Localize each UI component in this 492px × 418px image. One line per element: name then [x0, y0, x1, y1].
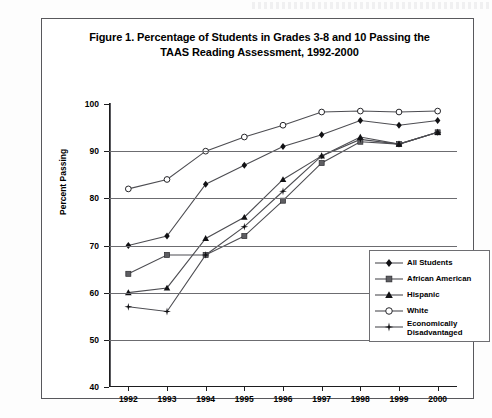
y-tick-label-60: 60 — [73, 288, 99, 298]
data-point-marker — [126, 271, 131, 276]
legend-item-label: All Students — [407, 258, 489, 267]
x-tick-1998 — [360, 387, 361, 391]
series-line — [128, 121, 437, 246]
data-point-marker — [319, 160, 324, 165]
data-point-marker — [164, 252, 169, 257]
x-tick-1992 — [128, 387, 129, 391]
figure-title: Figure 1. Percentage of Students in Grad… — [67, 30, 452, 60]
y-tick-100 — [104, 104, 109, 105]
x-tick-1999 — [399, 387, 400, 391]
data-point-marker — [202, 235, 209, 241]
x-tick-label-1996: 1996 — [263, 394, 303, 404]
x-tick-label-1993: 1993 — [147, 394, 187, 404]
x-tick-1996 — [283, 387, 284, 391]
page-header-bleedthrough-artifact — [252, 2, 490, 9]
diamond-marker-icon — [374, 255, 404, 271]
data-point-marker — [319, 131, 324, 138]
y-tick-label-70: 70 — [73, 241, 99, 251]
x-tick-1997 — [322, 387, 323, 391]
data-point-marker — [280, 143, 285, 150]
y-tick-label-90: 90 — [73, 146, 99, 156]
data-point-marker — [242, 162, 247, 169]
series-all-students — [126, 117, 441, 249]
data-point-marker — [164, 177, 170, 183]
data-point-marker — [396, 109, 402, 115]
gridline-80 — [109, 198, 457, 199]
legend-item-label: Hispanic — [407, 290, 489, 299]
x-tick-label-1994: 1994 — [186, 394, 226, 404]
y-tick-90 — [104, 151, 109, 152]
legend-item-label: White — [407, 306, 489, 315]
data-point-marker — [242, 234, 247, 239]
figure-title-line-2: TAAS Reading Assessment, 1992-2000 — [160, 46, 358, 58]
plot-area: 1009080706050401992199319941995199619971… — [109, 104, 457, 387]
data-point-marker — [125, 186, 131, 192]
x-tick-1993 — [167, 387, 168, 391]
star-marker-icon — [374, 319, 404, 335]
figure-title-line-1: Figure 1. Percentage of Students in Grad… — [89, 31, 430, 43]
legend-item-african-american[interactable]: African American — [370, 271, 491, 287]
legend-item-economically[interactable]: EconomicallyDisadvantaged — [370, 319, 491, 335]
data-point-marker — [280, 122, 286, 128]
y-tick-40 — [104, 387, 109, 388]
y-tick-70 — [104, 246, 109, 247]
legend-item-label-line-2: Disadvantaged — [407, 328, 489, 337]
y-tick-label-40: 40 — [73, 382, 99, 392]
y-tick-label-100: 100 — [73, 99, 99, 109]
data-point-marker — [163, 308, 171, 316]
legend-item-label: EconomicallyDisadvantaged — [407, 319, 489, 337]
x-tick-1995 — [244, 387, 245, 391]
legend-item-label-line-1: Economically — [407, 319, 489, 328]
open-circle-marker-icon — [374, 303, 404, 319]
square-marker-icon — [374, 271, 404, 287]
scanned-page: Figure 1. Percentage of Students in Grad… — [0, 0, 492, 418]
gridline-70 — [109, 246, 457, 247]
data-point-marker — [124, 303, 132, 311]
x-tick-label-1999: 1999 — [379, 394, 419, 404]
y-tick-label-50: 50 — [73, 335, 99, 345]
x-tick-label-2000: 2000 — [418, 394, 458, 404]
x-tick-1994 — [206, 387, 207, 391]
figure-container: Figure 1. Percentage of Students in Grad… — [41, 18, 474, 399]
y-tick-label-80: 80 — [73, 193, 99, 203]
y-tick-50 — [104, 340, 109, 341]
data-point-marker — [396, 122, 401, 129]
data-point-marker — [357, 108, 363, 114]
data-point-marker — [435, 108, 441, 114]
x-tick-label-1995: 1995 — [224, 394, 264, 404]
x-tick-label-1992: 1992 — [108, 394, 148, 404]
legend-item-hispanic[interactable]: Hispanic — [370, 287, 491, 303]
gridline-90 — [109, 151, 457, 152]
x-tick-label-1998: 1998 — [340, 394, 380, 404]
y-tick-80 — [104, 198, 109, 199]
legend-item-white[interactable]: White — [370, 303, 491, 319]
data-point-marker — [358, 117, 363, 124]
data-point-marker — [319, 109, 325, 115]
data-point-marker — [435, 117, 440, 124]
legend-item-label: African American — [407, 274, 489, 283]
y-axis-title: Percent Passing — [58, 149, 68, 215]
legend-item-all-students[interactable]: All Students — [370, 255, 491, 271]
y-tick-60 — [104, 293, 109, 294]
data-point-marker — [241, 134, 247, 140]
data-point-marker — [280, 176, 287, 182]
triangle-marker-icon — [374, 287, 404, 303]
chart-legend: All StudentsAfrican AmericanHispanicWhit… — [369, 250, 490, 342]
x-tick-2000 — [438, 387, 439, 391]
x-tick-label-1997: 1997 — [302, 394, 342, 404]
